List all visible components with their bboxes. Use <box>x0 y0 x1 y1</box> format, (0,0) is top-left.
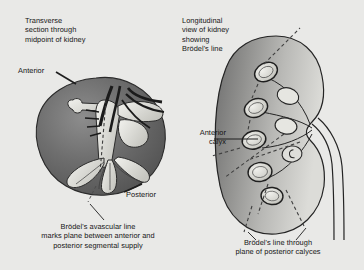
kidney-brodel-line-figure: Transverse section through midpoint of k… <box>0 0 364 270</box>
label-anterior: Anterior <box>18 66 78 75</box>
leader-brodel-avascular <box>90 204 104 220</box>
right-kidney-longitudinal <box>212 28 344 240</box>
longitudinal-view-heading: Longitudinal view of kidney showing Bröd… <box>182 16 282 53</box>
label-posterior: Posterior <box>126 190 186 199</box>
transverse-section-heading: Transverse section through midpoint of k… <box>25 16 135 44</box>
caption-brodel-avascular-line: Brödel's avascular line marks plane betw… <box>8 222 188 250</box>
caption-brodel-line-posterior-calyces: Brödel's line through plane of posterior… <box>200 238 356 257</box>
label-anterior-calyx: Anterior calyx <box>178 128 226 147</box>
